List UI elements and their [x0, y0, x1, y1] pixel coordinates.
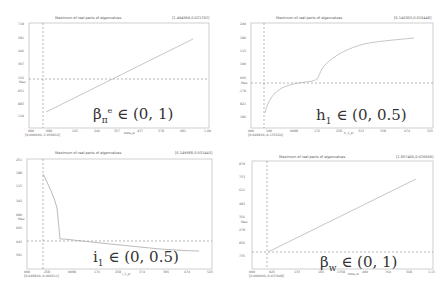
- x-tick: 1.00: [204, 129, 211, 133]
- y-tick: 110: [10, 114, 24, 118]
- chart-title: Maximum of real parts of eigenvalues: [55, 151, 121, 155]
- bottom-coordinates: [0.049960,-0.002611]: [24, 274, 59, 278]
- x-tick: 0098: [68, 270, 76, 274]
- y-axis-label: Max: [241, 220, 248, 224]
- chart-title: Maximum of real parts of eigenvalues: [55, 16, 121, 20]
- x-tick: 1.15: [428, 270, 435, 274]
- y-axis-label: Max: [18, 217, 25, 221]
- x-axis-label: i_1_pi: [122, 272, 130, 276]
- x-tick: 578: [158, 129, 164, 133]
- y-tick: 240: [232, 22, 246, 26]
- bottom-coordinates: [0.000000,-0.037049]: [249, 274, 284, 278]
- y-tick: 501: [8, 253, 22, 257]
- x-tick: 357: [114, 129, 120, 133]
- x-tick: 437: [137, 129, 143, 133]
- parameter-range-annotation: βw ∈ (0, 1): [320, 253, 397, 273]
- y-tick: 180: [232, 36, 246, 40]
- parameter-range-annotation: h1 ∈ (0, 0.5): [316, 106, 407, 126]
- y-tick: 719: [10, 22, 24, 26]
- x-axis-label: beta_pi: [124, 131, 135, 135]
- bottom-coordinates: [0.049960,-0.155524]: [248, 133, 283, 137]
- y-tick: 356: [231, 215, 245, 219]
- y-tick: 102: [8, 199, 22, 203]
- x-tick: 313: [358, 129, 364, 133]
- y-tick: 883: [10, 102, 24, 106]
- x-axis-label: h_1_pi: [344, 131, 354, 135]
- x-tick: 358: [380, 129, 386, 133]
- coordinates-label: [1.857400,0.026600]: [396, 155, 433, 159]
- parameter-range-annotation: βπe ∈ (0, 1): [93, 105, 173, 125]
- chart-title: Maximum of real parts of eigenvalues: [276, 16, 342, 20]
- x-tick: 176: [314, 129, 320, 133]
- coordinates-label: [0.149588,0.031443]: [175, 151, 212, 155]
- y-tick: 056: [232, 76, 246, 80]
- x-tick: 395: [163, 270, 169, 274]
- y-axis-label: Max: [241, 81, 248, 85]
- y-tick: 821: [232, 102, 246, 106]
- y-tick: 278: [231, 228, 245, 232]
- x-tick: 176: [94, 270, 100, 274]
- y-tick: 581: [10, 36, 24, 40]
- parameter-range-annotation: i1 ∈ (0, 0.5): [93, 248, 179, 268]
- x-tick: 165: [72, 129, 78, 133]
- y-tick: 446: [10, 49, 24, 53]
- y-tick: 045: [8, 240, 22, 244]
- y-tick: 115: [8, 184, 22, 188]
- x-tick: 525: [207, 270, 213, 274]
- y-tick: 056: [8, 226, 22, 230]
- y-tick: 753: [231, 175, 245, 179]
- y-tick: 051: [10, 89, 24, 93]
- y-tick: 307: [10, 62, 24, 66]
- x-tick: 568: [406, 270, 412, 274]
- y-tick: 611: [231, 188, 245, 192]
- chart-i1: Maximum of real parts of eigenvalues [0.…: [0, 146, 224, 292]
- chart-title: Maximum of real parts of eigenvalues: [279, 155, 345, 159]
- x-tick: 474: [404, 129, 410, 133]
- x-tick: 474: [184, 270, 190, 274]
- y-tick: 856: [231, 241, 245, 245]
- y-tick: 735: [231, 254, 245, 258]
- y-axis-label: Max: [19, 80, 26, 84]
- y-tick: 115: [232, 49, 246, 53]
- x-tick: 246: [94, 129, 100, 133]
- x-tick: 374: [139, 270, 145, 274]
- y-tick: 879: [231, 162, 245, 166]
- y-tick: 198: [8, 171, 22, 175]
- x-tick: 258: [336, 129, 342, 133]
- plot-area: [0, 146, 224, 292]
- y-tick: 100: [232, 62, 246, 66]
- y-tick: 196: [232, 115, 246, 119]
- y-tick: 483: [231, 202, 245, 206]
- coordinates-label: [1.494569,0.021762]: [172, 16, 209, 20]
- y-tick: 251: [8, 158, 22, 162]
- chart-h1: Maximum of real parts of eigenvalues [0.…: [224, 0, 448, 146]
- coordinates-label: [0.140303,0.015448]: [394, 16, 431, 20]
- x-tick: 681: [180, 129, 186, 133]
- y-tick: -170: [232, 89, 246, 93]
- x-tick: 525: [427, 129, 433, 133]
- x-tick: 133: [294, 270, 300, 274]
- bottom-coordinates: [0.000000,-3.050912]: [25, 133, 60, 137]
- chart-beta-pi: Maximum of real parts of eigenvalues [1.…: [0, 0, 224, 146]
- chart-beta-w: Maximum of real parts of eigenvalues [1.…: [224, 146, 448, 292]
- x-tick: 258: [115, 270, 121, 274]
- x-tick: 0098: [290, 129, 298, 133]
